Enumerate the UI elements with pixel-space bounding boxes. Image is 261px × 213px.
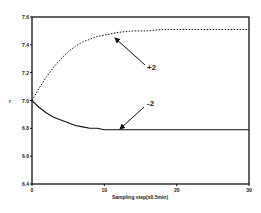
arrow-minus2 <box>120 107 144 129</box>
series-line-plus2 <box>32 30 249 101</box>
series-line-minus2 <box>32 101 249 130</box>
x-tick-label: 20 <box>174 187 180 193</box>
line-chart: 6.46.66.87.07.27.47.6 0102030 r Sampling… <box>0 0 261 213</box>
y-tick-label: 6.6 <box>22 153 29 159</box>
y-tick-label: 6.8 <box>22 125 29 131</box>
series-layer <box>32 30 249 130</box>
x-axis-ticks: 0102030 <box>31 184 252 193</box>
y-axis-ticks: 6.46.66.87.07.27.47.6 <box>22 14 32 187</box>
x-tick-label: 10 <box>102 187 108 193</box>
plot-frame <box>32 17 249 184</box>
y-tick-label: 7.2 <box>22 70 29 76</box>
y-tick-label: 7.0 <box>22 98 29 104</box>
label-plus2: +2 <box>147 63 157 72</box>
y-tick-label: 7.6 <box>22 14 29 20</box>
y-tick-label: 7.4 <box>22 42 29 48</box>
x-axis-label: Sampling step(x0.5min) <box>112 194 168 200</box>
y-axis-label: r <box>9 98 11 104</box>
label-minus2: -2 <box>147 99 155 108</box>
arrow-plus2 <box>115 38 145 65</box>
x-tick-label: 0 <box>31 187 34 193</box>
annotations: +2 -2 <box>115 38 157 129</box>
x-tick-label: 30 <box>246 187 252 193</box>
y-tick-label: 6.4 <box>22 181 29 187</box>
